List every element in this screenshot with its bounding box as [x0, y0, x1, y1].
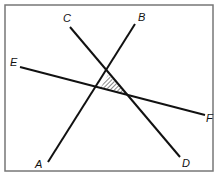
label-a: A [34, 158, 42, 170]
label-c: C [63, 12, 71, 24]
label-d: D [182, 157, 190, 169]
label-e: E [10, 56, 18, 68]
intersecting-lines-diagram: A B C D E F [0, 0, 219, 177]
label-b: B [138, 11, 145, 23]
